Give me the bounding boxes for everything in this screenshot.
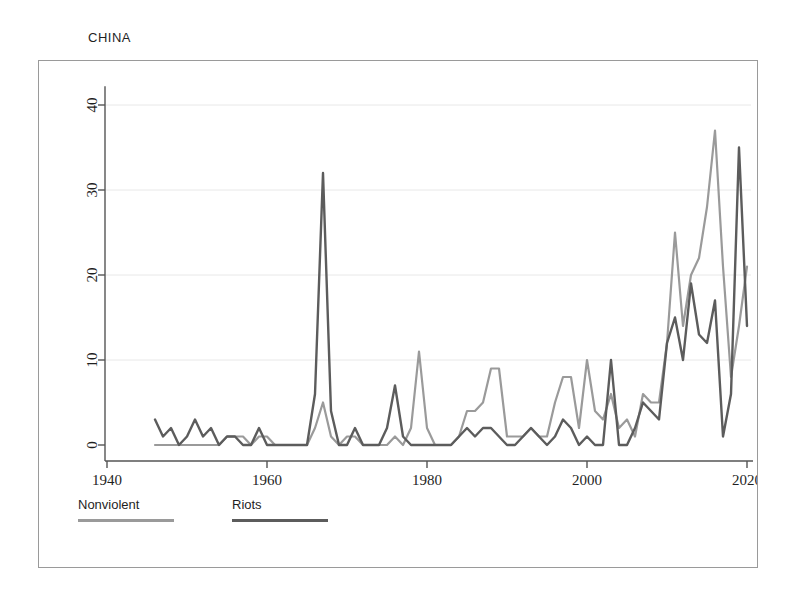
legend-label-riots: Riots [232,497,262,512]
svg-text:2000: 2000 [572,472,602,488]
legend-item-riots[interactable]: Riots [232,497,328,522]
figure-container: CHINA 01020304019401960198020002020 Nonv… [0,0,792,608]
svg-text:1980: 1980 [412,472,442,488]
svg-text:10: 10 [84,353,100,368]
svg-text:40: 40 [84,98,100,113]
svg-text:20: 20 [84,268,100,283]
svg-text:1960: 1960 [252,472,282,488]
line-chart-svg: 01020304019401960198020002020 [39,61,757,567]
legend-swatch-nonviolent [78,519,174,522]
page-title: CHINA [88,30,131,45]
legend-swatch-riots [232,519,328,522]
chart-legend: Nonviolent Riots [78,497,328,522]
svg-text:1940: 1940 [92,472,122,488]
legend-label-nonviolent: Nonviolent [78,497,139,512]
svg-text:0: 0 [84,441,100,449]
legend-item-nonviolent[interactable]: Nonviolent [78,497,174,522]
svg-text:2020: 2020 [732,472,757,488]
svg-text:30: 30 [84,183,100,198]
plot-frame: 01020304019401960198020002020 [38,60,758,568]
